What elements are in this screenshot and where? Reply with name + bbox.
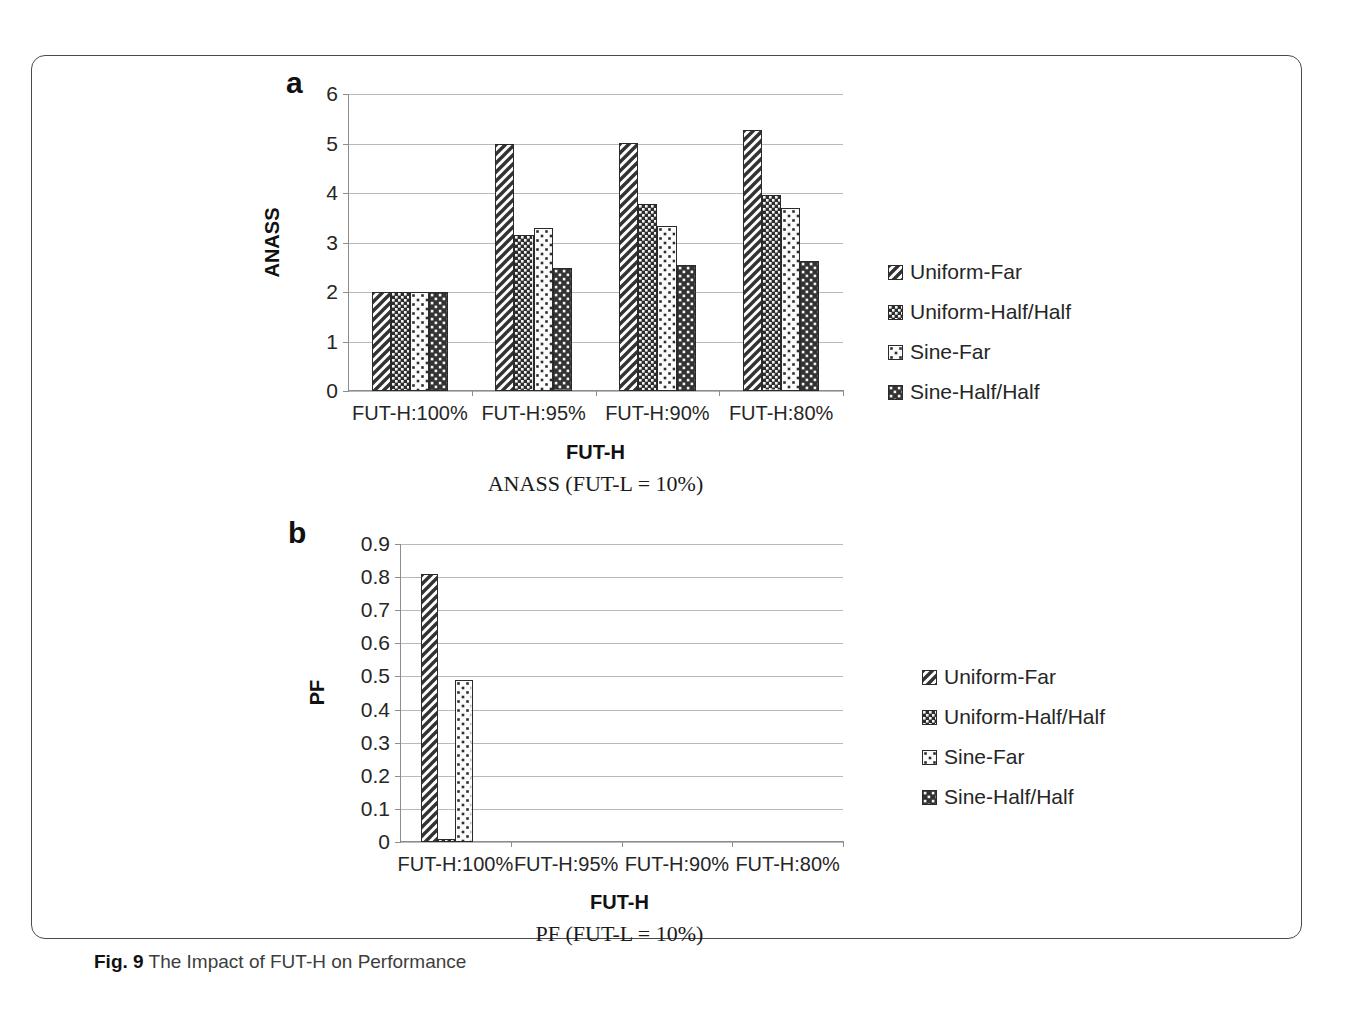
bar <box>495 144 514 392</box>
legend-item-pf[interactable]: Sine-Half/Half <box>922 781 1105 813</box>
y-axis-tick-label: 5 <box>326 132 338 156</box>
x-axis-label-pf: FUT-H <box>372 891 867 914</box>
legend-item-anass[interactable]: Uniform-Half/Half <box>888 296 1071 328</box>
x-axis-tick-label: FUT-H:100% <box>352 402 468 425</box>
legend-item-anass[interactable]: Sine-Half/Half <box>888 376 1071 408</box>
bar <box>391 292 410 391</box>
bar <box>455 680 472 842</box>
bar <box>553 268 572 391</box>
y-axis-tick-label: 3 <box>326 231 338 255</box>
legend-item-label: Uniform-Half/Half <box>944 705 1105 729</box>
y-axis-line <box>348 94 349 391</box>
bar <box>677 265 696 391</box>
x-axis-tick-label: FUT-H:90% <box>625 853 729 876</box>
x-axis-tick-label: FUT-H:95% <box>514 853 618 876</box>
legend-item-anass[interactable]: Uniform-Far <box>888 256 1071 288</box>
x-axis-tick <box>622 841 623 847</box>
legend-swatch-icon <box>922 790 937 805</box>
gridline <box>400 610 843 611</box>
legend-swatch-icon <box>922 750 937 765</box>
bar <box>638 204 657 391</box>
y-axis-tick-label: 1 <box>326 330 338 354</box>
y-axis-tick-label: 0 <box>326 379 338 403</box>
x-axis-tick-label: FUT-H:90% <box>605 402 709 425</box>
figure-caption-text: The Impact of FUT-H on Performance <box>149 951 467 972</box>
legend-item-pf[interactable]: Uniform-Half/Half <box>922 701 1105 733</box>
y-axis-tick-label: 0.9 <box>361 532 390 556</box>
y-axis-tick-label: 0.8 <box>361 565 390 589</box>
figure-caption-number: Fig. 9 <box>94 951 144 972</box>
chart-panel-pf: b 00.10.20.30.40.50.60.70.80.9FUT-H:100%… <box>32 496 1301 926</box>
y-axis-label-pf: PF <box>306 653 329 733</box>
bar <box>619 143 638 391</box>
x-axis-tick-label: FUT-H:80% <box>735 853 839 876</box>
bar <box>372 292 391 391</box>
x-axis-tick-label: FUT-H:100% <box>398 853 514 876</box>
y-axis-tick-label: 0.6 <box>361 631 390 655</box>
x-axis-tick <box>843 390 844 396</box>
legend-item-label: Sine-Half/Half <box>944 785 1074 809</box>
y-axis-tick-label: 0 <box>378 830 390 854</box>
x-axis-tick <box>596 390 597 396</box>
legend-anass: Uniform-FarUniform-Half/HalfSine-FarSine… <box>888 256 1071 416</box>
gridline <box>400 577 843 578</box>
plot-area-pf: 00.10.20.30.40.50.60.70.80.9FUT-H:100%FU… <box>400 544 843 842</box>
legend-item-pf[interactable]: Uniform-Far <box>922 661 1105 693</box>
x-axis-tick <box>472 390 473 396</box>
legend-swatch-icon <box>888 385 903 400</box>
bar <box>534 228 553 391</box>
y-axis-tick-label: 0.7 <box>361 598 390 622</box>
gridline <box>400 544 843 545</box>
bar <box>762 195 781 391</box>
legend-swatch-icon <box>922 670 937 685</box>
y-axis-tick <box>395 842 401 843</box>
panel-label-a: a <box>286 66 302 100</box>
bar <box>781 208 800 391</box>
x-axis-tick-label: FUT-H:80% <box>729 402 833 425</box>
figure-caption: Fig. 9 The Impact of FUT-H on Performanc… <box>94 951 466 973</box>
y-axis-tick-label: 2 <box>326 280 338 304</box>
legend-pf: Uniform-FarUniform-Half/HalfSine-FarSine… <box>922 661 1105 821</box>
panel-label-b: b <box>288 516 306 550</box>
y-axis-tick-label: 0.1 <box>361 797 390 821</box>
bar <box>429 292 448 391</box>
x-axis-tick <box>732 841 733 847</box>
legend-item-label: Uniform-Half/Half <box>910 300 1071 324</box>
y-axis-line <box>400 544 401 842</box>
plot-area-anass: 0123456FUT-H:100%FUT-H:95%FUT-H:90%FUT-H… <box>348 94 843 391</box>
bar <box>410 292 429 391</box>
x-axis-tick <box>719 390 720 396</box>
y-axis-tick <box>343 391 349 392</box>
legend-item-label: Uniform-Far <box>944 665 1056 689</box>
chart-subtitle-anass: ANASS (FUT-L = 10%) <box>348 471 843 497</box>
bar <box>514 235 533 391</box>
legend-swatch-icon <box>888 265 903 280</box>
legend-swatch-icon <box>888 345 903 360</box>
bar <box>438 839 455 842</box>
bar <box>421 574 438 842</box>
y-axis-tick-label: 0.4 <box>361 698 390 722</box>
legend-item-label: Sine-Far <box>944 745 1025 769</box>
legend-swatch-icon <box>888 305 903 320</box>
gridline <box>400 643 843 644</box>
bar <box>800 261 819 391</box>
y-axis-tick-label: 4 <box>326 181 338 205</box>
x-axis-tick <box>843 841 844 847</box>
legend-item-label: Sine-Far <box>910 340 991 364</box>
chart-subtitle-pf: PF (FUT-L = 10%) <box>372 921 867 947</box>
legend-item-pf[interactable]: Sine-Far <box>922 741 1105 773</box>
legend-swatch-icon <box>922 710 937 725</box>
legend-item-label: Sine-Half/Half <box>910 380 1040 404</box>
gridline <box>348 193 843 194</box>
y-axis-tick-label: 0.2 <box>361 764 390 788</box>
x-axis-label-anass: FUT-H <box>348 441 843 464</box>
x-axis-tick <box>511 841 512 847</box>
figure-frame: a 0123456FUT-H:100%FUT-H:95%FUT-H:90%FUT… <box>31 55 1302 939</box>
x-axis-tick-label: FUT-H:95% <box>481 402 585 425</box>
legend-item-label: Uniform-Far <box>910 260 1022 284</box>
bar <box>743 130 762 391</box>
y-axis-label-anass: ANASS <box>261 188 284 298</box>
chart-panel-anass: a 0123456FUT-H:100%FUT-H:95%FUT-H:90%FUT… <box>32 56 1301 486</box>
y-axis-tick-label: 0.3 <box>361 731 390 755</box>
legend-item-anass[interactable]: Sine-Far <box>888 336 1071 368</box>
